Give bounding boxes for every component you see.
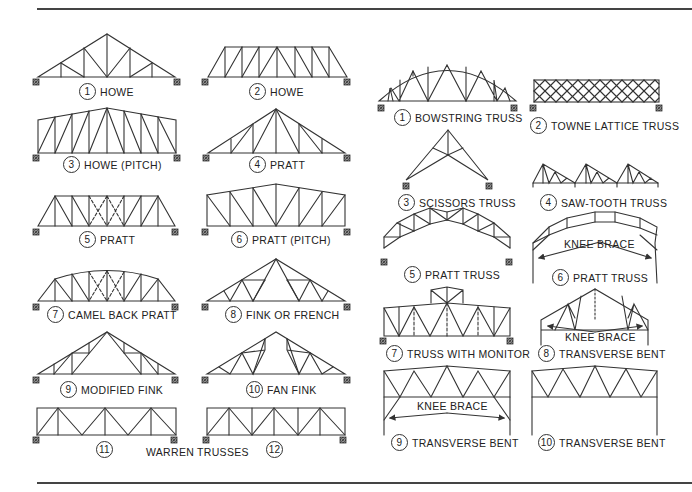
label-left-10: 10FAN FINK xyxy=(246,381,317,398)
number-badge: 2 xyxy=(249,83,266,100)
number-badge: 6 xyxy=(231,231,248,248)
truss-pratt-pitch xyxy=(202,184,350,235)
label-left-9: 9MODIFIED FINK xyxy=(60,381,163,398)
number-badge: 4 xyxy=(249,156,266,173)
truss-howe-pitch xyxy=(33,108,180,161)
number-badge: 6 xyxy=(552,269,569,286)
number-badge: 2 xyxy=(530,117,547,134)
truss-howe-2 xyxy=(202,47,350,85)
knee-brace-annotation: KNEE BRACE xyxy=(417,400,488,412)
number-badge: 7 xyxy=(386,345,403,362)
truss-bowstring xyxy=(378,65,517,111)
truss-camel-back-pratt xyxy=(33,271,178,311)
number-badge: 3 xyxy=(63,156,80,173)
truss-with-monitor xyxy=(380,287,513,344)
number-badge: 9 xyxy=(391,434,408,451)
label-left-11: 11 xyxy=(96,441,117,458)
number-badge: 8 xyxy=(538,345,555,362)
truss-transverse-bent-10 xyxy=(532,366,657,435)
label-right-9: 9TRANSVERSE BENT xyxy=(391,434,519,451)
number-badge: 4 xyxy=(540,194,557,211)
label-right-3: 3SCISSORS TRUSS xyxy=(398,194,516,211)
number-badge: 1 xyxy=(79,83,96,100)
label-right-8: 8TRANSVERSE BENT xyxy=(538,345,666,362)
label-left-4: 4PRATT xyxy=(249,156,305,173)
number-badge: 10 xyxy=(538,434,555,451)
truss-pratt-5 xyxy=(33,196,178,235)
label-left-2: 2HOWE xyxy=(249,83,304,100)
label-right-6: 6PRATT TRUSS xyxy=(552,269,648,286)
label-left-1: 1HOWE xyxy=(79,83,134,100)
number-badge: 11 xyxy=(96,441,113,458)
label-left-6: 6PRATT (PITCH) xyxy=(231,231,331,248)
number-badge: 5 xyxy=(79,231,96,248)
label-left-7: 7CAMEL BACK PRATT xyxy=(47,306,177,323)
knee-brace-annotation: KNEE BRACE xyxy=(565,331,636,343)
number-badge: 10 xyxy=(246,381,263,398)
number-badge: 9 xyxy=(60,381,77,398)
number-badge: 1 xyxy=(394,109,411,126)
number-badge: 7 xyxy=(47,306,64,323)
truss-howe-1 xyxy=(33,34,180,85)
truss-scissors xyxy=(403,130,492,189)
label-left-12: 12 xyxy=(266,441,287,458)
label-right-4: 4SAW-TOOTH TRUSS xyxy=(540,194,667,211)
truss-pratt-4 xyxy=(203,109,350,161)
number-badge: 8 xyxy=(225,306,242,323)
truss-pratt-arched xyxy=(381,208,512,265)
label-right-10: 10TRANSVERSE BENT xyxy=(538,434,666,451)
warren-trusses-caption: WARREN TRUSSES xyxy=(146,446,249,458)
label-left-5: 5PRATT xyxy=(79,231,135,248)
number-badge: 3 xyxy=(398,194,415,211)
truss-fan-fink xyxy=(202,332,350,383)
knee-brace-annotation: KNEE BRACE xyxy=(564,238,635,250)
truss-fink-french xyxy=(202,259,350,310)
label-left-3: 3HOWE (PITCH) xyxy=(63,156,162,173)
truss-warren-11 xyxy=(33,408,177,443)
label-right-1: 1BOWSTRING TRUSS xyxy=(394,109,523,126)
label-left-8: 8FINK OR FRENCH xyxy=(225,306,339,323)
truss-warren-12 xyxy=(203,408,346,443)
truss-modified-fink xyxy=(33,332,178,383)
number-badge: 12 xyxy=(266,441,283,458)
number-badge: 5 xyxy=(404,266,421,283)
label-right-7: 7TRUSS WITH MONITOR xyxy=(386,345,530,362)
label-right-5: 5PRATT TRUSS xyxy=(404,266,500,283)
truss-saw-tooth xyxy=(533,164,658,187)
label-right-2: 2TOWNE LATTICE TRUSS xyxy=(530,117,679,134)
truss-towne-lattice xyxy=(530,80,662,111)
